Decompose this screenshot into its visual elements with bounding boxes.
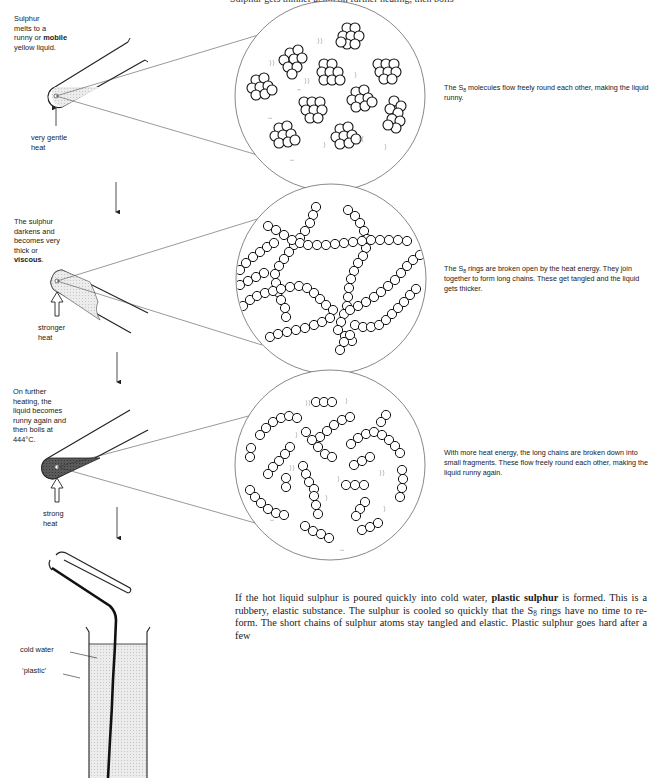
leader-line xyxy=(63,674,80,678)
plastic-label: ‘plastic’ xyxy=(22,666,46,676)
magnified-view-3 xyxy=(235,370,425,560)
stage-3-heat-label: strong heat xyxy=(43,509,64,528)
stage-1-label: Sulphur melts to a runny or mobile yello… xyxy=(14,14,67,52)
stage-3-description: With more heat energy, the long chains a… xyxy=(444,448,649,477)
sulphur-heating-diagram xyxy=(0,0,653,778)
stage-3-label: On further heating, the liquid becomes r… xyxy=(13,387,66,445)
cold-water-label: cold water xyxy=(20,645,54,655)
stage-2-heat-label: stronger heat xyxy=(38,323,65,342)
pouring-tube xyxy=(49,552,130,620)
stage-2-label: The sulphur darkens and becomes very thi… xyxy=(14,217,60,265)
zoom-line xyxy=(57,281,262,345)
stage-2-description: The S8 rings are broken open by the heat… xyxy=(444,264,649,293)
magnified-view-1 xyxy=(235,1,425,191)
beaker xyxy=(86,620,150,778)
test-tube-2 xyxy=(51,270,148,333)
magnified-view-2 xyxy=(235,184,426,374)
plastic-sulphur-paragraph: If the hot liquid sulphur is poured quic… xyxy=(235,592,647,642)
stage-1-description: The S8 molecules flow freely round each … xyxy=(444,83,649,103)
heat-arrow-hollow xyxy=(51,478,63,502)
heat-arrow-hollow xyxy=(51,292,63,316)
stage-1-heat-label: very gentle heat xyxy=(31,133,67,152)
